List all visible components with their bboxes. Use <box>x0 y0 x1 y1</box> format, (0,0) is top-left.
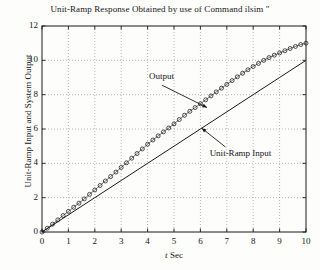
x-tick-label: 0 <box>34 236 50 246</box>
y-tick-label: 2 <box>16 192 38 202</box>
x-tick-label: 7 <box>219 236 235 246</box>
x-tick-label: 10 <box>298 236 314 246</box>
chart-figure: Unit-Ramp Response Obtained by use of Co… <box>0 0 320 270</box>
x-tick-label: 3 <box>113 236 129 246</box>
x-tick-label: 9 <box>272 236 288 246</box>
x-tick-label: 1 <box>60 236 76 246</box>
plot-area <box>0 0 320 270</box>
y-tick-label: 8 <box>16 89 38 99</box>
x-tick-label: 4 <box>140 236 156 246</box>
y-tick-label: 4 <box>16 157 38 167</box>
y-tick-label: 10 <box>16 54 38 64</box>
x-tick-label: 5 <box>166 236 182 246</box>
y-tick-label: 12 <box>16 20 38 30</box>
annotation-label: Output <box>149 71 174 81</box>
x-tick-label: 2 <box>87 236 103 246</box>
y-tick-label: 6 <box>16 123 38 133</box>
x-tick-label: 8 <box>245 236 261 246</box>
annotation-label: Unit-Ramp Input <box>210 148 272 158</box>
x-tick-label: 6 <box>192 236 208 246</box>
y-tick-label: 0 <box>16 226 38 236</box>
